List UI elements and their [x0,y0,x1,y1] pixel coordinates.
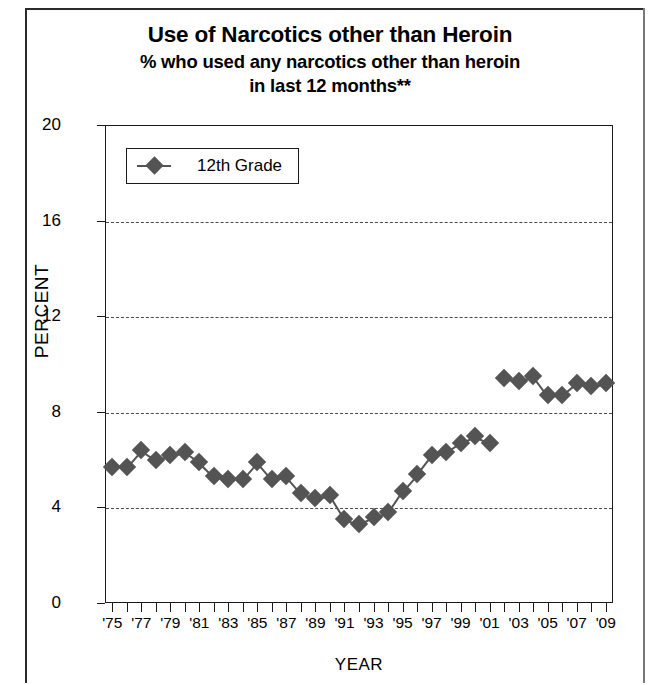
x-axis-tick [243,603,244,612]
y-axis-tick [97,316,105,317]
y-axis-tick-label: 4 [52,497,61,517]
y-axis-tick-label: 16 [42,211,61,231]
gridline [106,317,612,318]
x-axis-tick [156,603,157,612]
x-axis-tick [286,603,287,612]
gridline [106,508,612,509]
x-axis-title: YEAR [105,655,613,675]
x-axis-tick [461,603,462,612]
y-axis-tick-label: 8 [52,402,61,422]
x-axis-tick [141,603,142,612]
x-axis-tick [315,603,316,612]
chart-page: Use of Narcotics other than Heroin % who… [0,0,649,685]
x-axis-tick [185,603,186,612]
x-axis-tick [374,603,375,612]
x-axis-tick-label: '81 [189,614,209,632]
x-axis-tick [432,603,433,612]
x-axis-tick-label: '75 [102,614,122,632]
x-axis-tick [214,603,215,612]
x-axis-tick-label: '83 [218,614,238,632]
x-axis-tick-label: '07 [567,614,587,632]
x-axis-tick-label: '77 [131,614,151,632]
x-axis-tick [446,603,447,612]
x-axis-tick [330,603,331,612]
x-axis-tick [475,603,476,612]
x-axis-tick [417,603,418,612]
x-axis-tick-label: '09 [596,614,616,632]
chart-subtitle-line2: in last 12 months** [40,75,620,98]
y-axis: PERCENT 048121620 [0,0,105,685]
x-axis-tick [490,603,491,612]
x-axis-tick [359,603,360,612]
x-axis-tick [403,603,404,612]
x-axis-tick [533,603,534,612]
x-axis-tick-label: '99 [450,614,470,632]
x-axis-tick-label: '89 [305,614,325,632]
x-axis-tick-label: '85 [247,614,267,632]
x-axis-tick [301,603,302,612]
x-axis-tick [344,603,345,612]
x-axis-tick [519,603,520,612]
x-axis-tick-label: '05 [538,614,558,632]
x-axis-tick-label: '79 [160,614,180,632]
x-axis-tick-label: '97 [421,614,441,632]
x-axis-tick [257,603,258,612]
y-axis-tick [97,603,105,604]
x-axis-tick [228,603,229,612]
chart-title-block: Use of Narcotics other than Heroin % who… [40,22,620,98]
x-axis-tick [112,603,113,612]
chart-subtitle-line1: % who used any narcotics other than hero… [40,51,620,74]
y-axis-tick [97,412,105,413]
gridline [106,413,612,414]
x-axis-tick [272,603,273,612]
chart-title: Use of Narcotics other than Heroin [40,22,620,49]
x-axis-tick-label: '93 [363,614,383,632]
x-axis-tick-label: '91 [334,614,354,632]
x-axis-tick-label: '87 [276,614,296,632]
diamond-marker-icon [137,159,171,173]
x-axis-tick [504,603,505,612]
x-axis-tick-label: '01 [480,614,500,632]
x-axis-tick [170,603,171,612]
page-border-right [643,8,645,683]
y-axis-tick [97,507,105,508]
gridline [106,222,612,223]
y-axis-tick [97,221,105,222]
y-axis-tick [97,125,105,126]
legend: 12th Grade [126,148,299,184]
x-axis-tick [127,603,128,612]
x-axis-tick [577,603,578,612]
y-axis-tick-label: 20 [42,115,61,135]
x-axis-tick [548,603,549,612]
legend-item-label: 12th Grade [197,156,282,176]
x-axis-tick [591,603,592,612]
y-axis-tick-label: 12 [42,306,61,326]
x-axis-tick-label: '03 [509,614,529,632]
x-axis-tick [562,603,563,612]
x-axis-tick [199,603,200,612]
x-axis-tick-label: '95 [392,614,412,632]
plot-area [105,125,613,603]
x-axis-tick [606,603,607,612]
x-axis-tick [388,603,389,612]
y-axis-tick-label: 0 [52,593,61,613]
